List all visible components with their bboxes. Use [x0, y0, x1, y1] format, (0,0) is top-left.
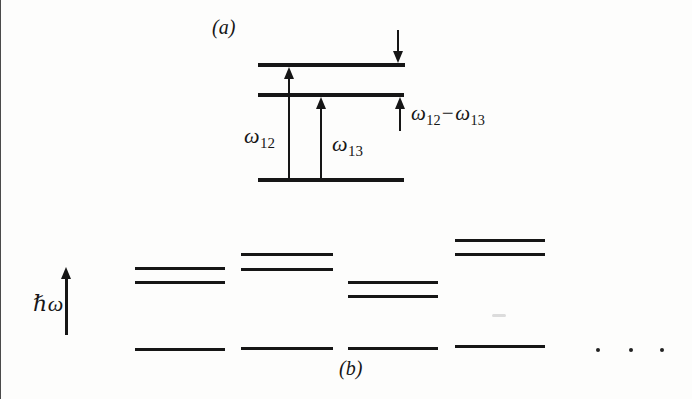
group-3-ground-level	[348, 347, 438, 350]
group-3-upper-level-1	[348, 281, 438, 284]
group-1-upper-level-2	[135, 281, 225, 284]
omega13-transition-arrow-shaft	[320, 105, 322, 181]
group-2-upper-level-1	[241, 253, 333, 256]
middle-level-line	[258, 93, 404, 97]
group-4-upper-level-2	[455, 253, 545, 256]
ellipsis-dot-3	[660, 348, 664, 352]
diagram-layer	[0, 0, 692, 399]
group-1-ground-level	[135, 348, 225, 351]
group-4-upper-level-1	[455, 239, 545, 242]
splitting-bottom-arrow-shaft	[399, 105, 401, 131]
omega12-transition-arrow-shaft	[288, 75, 290, 181]
figure-canvas: (a) ω12 ω13 ω12−ω13 ℏω (b)	[0, 0, 692, 399]
splitting-top-arrow-shaft	[397, 30, 399, 55]
group-4-ground-level	[455, 345, 545, 348]
ellipsis-dot-2	[629, 348, 633, 352]
group-2-upper-level-2	[241, 268, 333, 271]
energy-axis-arrow-shaft	[65, 275, 68, 335]
ellipsis-dot-1	[596, 348, 600, 352]
ground-level-line	[258, 178, 404, 182]
upper-level-line	[258, 63, 405, 67]
group-3-upper-level-2	[348, 295, 438, 298]
group-1-upper-level-1	[135, 267, 225, 270]
group-2-ground-level	[241, 347, 333, 350]
